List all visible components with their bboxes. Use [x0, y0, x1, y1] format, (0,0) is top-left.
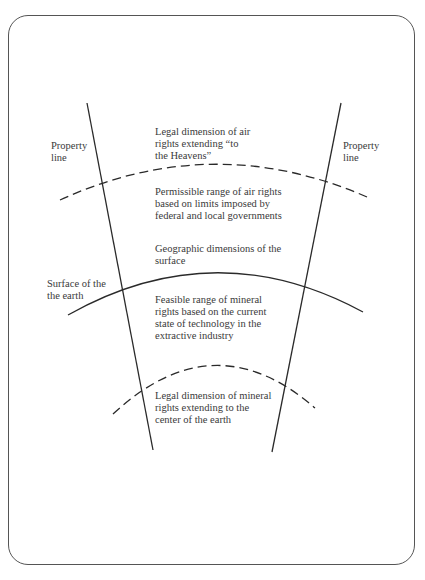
- surface-geographic-label: Geographic dimensions of the surface: [155, 243, 281, 267]
- air-rights-legal-label: Legal dimension of air rights extending …: [155, 126, 250, 162]
- property-line-right-label: Property line: [343, 140, 379, 164]
- surface-of-earth-label: Surface of the the earth: [47, 278, 106, 302]
- property-line-left: [87, 103, 153, 450]
- mineral-rights-feasible-label: Feasible range of mineral rights based o…: [155, 294, 266, 342]
- property-line-left-label: Property line: [51, 140, 87, 164]
- mineral-rights-legal-label: Legal dimension of mineral rights extend…: [155, 390, 271, 426]
- property-line-right: [272, 103, 341, 452]
- air-rights-permissible-label: Permissible range of air rights based on…: [155, 186, 282, 222]
